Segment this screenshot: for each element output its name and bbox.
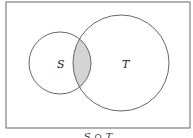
set-s-label: S <box>57 58 65 71</box>
caption: S ∩ T <box>84 131 114 138</box>
venn-diagram: S T S ∩ T <box>0 0 193 138</box>
